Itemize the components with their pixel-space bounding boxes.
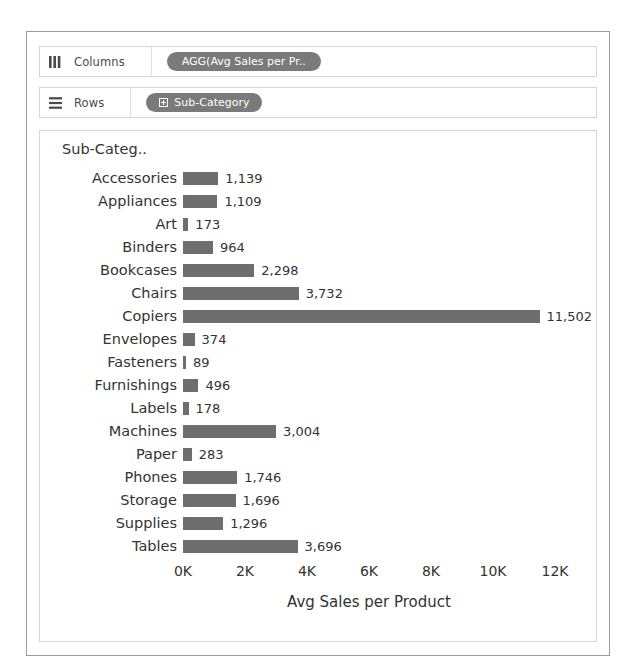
bar-row[interactable]: Accessories1,139 [40,167,598,190]
bar-row[interactable]: Fasteners89 [40,351,598,374]
category-label: Envelopes [103,328,177,351]
shelf-columns-label: Columns [74,55,125,69]
bar-value-label: 1,696 [243,493,280,508]
bar-value-label: 1,296 [230,516,267,531]
bar-mark[interactable] [183,471,237,484]
category-label: Tables [132,535,177,558]
bar-mark[interactable] [183,264,254,277]
bar-value-label: 1,139 [225,171,262,186]
bar-row[interactable]: Machines3,004 [40,420,598,443]
bar-row[interactable]: Appliances1,109 [40,190,598,213]
bar-with-label: 3,004 [183,420,320,443]
bar-mark[interactable] [183,333,195,346]
bar-mark[interactable] [183,218,188,231]
bar-mark[interactable] [183,425,276,438]
pill-rows-text: Sub-Category [174,96,249,109]
bar-mark[interactable] [183,241,213,254]
x-axis-title: Avg Sales per Product [40,593,598,611]
category-label: Appliances [98,190,177,213]
category-label: Bookcases [100,259,177,282]
bar-row[interactable]: Bookcases2,298 [40,259,598,282]
bar-row[interactable]: Supplies1,296 [40,512,598,535]
bar-row[interactable]: Furnishings496 [40,374,598,397]
bar-row[interactable]: Envelopes374 [40,328,598,351]
category-label: Phones [125,466,177,489]
category-label: Machines [109,420,177,443]
bar-row[interactable]: Copiers11,502 [40,305,598,328]
bar-mark[interactable] [183,448,192,461]
category-label: Accessories [92,167,177,190]
bar-mark[interactable] [183,287,299,300]
bar-with-label: 2,298 [183,259,298,282]
bar-row[interactable]: Paper283 [40,443,598,466]
bar-with-label: 283 [183,443,224,466]
x-tick-label: 8K [422,563,440,579]
bar-value-label: 3,732 [306,286,343,301]
bar-value-label: 1,746 [244,470,281,485]
bar-mark[interactable] [183,379,198,392]
bar-mark[interactable] [183,195,217,208]
x-tick-label: 0K [174,563,192,579]
shelf-rows[interactable]: Rows Sub-Category [39,87,597,118]
bar-mark[interactable] [183,494,236,507]
bar-value-label: 11,502 [547,309,593,324]
bar-with-label: 11,502 [183,305,592,328]
bar-with-label: 496 [183,374,230,397]
bar-row[interactable]: Storage1,696 [40,489,598,512]
bar-value-label: 496 [205,378,230,393]
category-label: Copiers [122,305,177,328]
x-tick-label: 6K [360,563,378,579]
category-label: Fasteners [107,351,177,374]
category-label: Art [155,213,177,236]
rows-icon [48,96,66,110]
bar-value-label: 3,696 [305,539,342,554]
category-label: Storage [120,489,177,512]
bar-mark[interactable] [183,540,298,553]
x-axis: 0K2K4K6K8K10K12K [40,563,598,589]
bar-value-label: 283 [199,447,224,462]
bar-mark[interactable] [183,402,189,415]
bar-value-label: 2,298 [261,263,298,278]
bar-with-label: 3,696 [183,535,342,558]
viz-widget-frame: Columns AGG(Avg Sales per Pr.. Rows Sub-… [26,31,610,656]
bar-mark[interactable] [183,172,218,185]
bar-value-label: 964 [220,240,245,255]
x-tick-label: 10K [480,563,507,579]
pill-columns-text: AGG(Avg Sales per Pr.. [182,55,306,68]
bar-mark[interactable] [183,517,223,530]
bar-row[interactable]: Art173 [40,213,598,236]
shelf-columns[interactable]: Columns AGG(Avg Sales per Pr.. [39,46,597,77]
bar-with-label: 1,109 [183,190,262,213]
bar-with-label: 1,296 [183,512,267,535]
bar-row[interactable]: Chairs3,732 [40,282,598,305]
pill-sub-category[interactable]: Sub-Category [146,93,262,112]
category-label: Supplies [116,512,177,535]
bar-mark[interactable] [183,310,540,323]
bar-with-label: 3,732 [183,282,343,305]
bar-value-label: 178 [196,401,221,416]
bar-value-label: 89 [193,355,210,370]
category-label: Chairs [131,282,177,305]
category-label: Binders [122,236,177,259]
chart-panel: Sub-Categ.. Accessories1,139Appliances1,… [39,130,597,642]
bar-row[interactable]: Tables3,696 [40,535,598,558]
x-tick-label: 12K [542,563,569,579]
bar-with-label: 89 [183,351,210,374]
bar-row[interactable]: Binders964 [40,236,598,259]
shelf-rows-label: Rows [74,96,104,110]
bar-row[interactable]: Labels178 [40,397,598,420]
category-label: Labels [130,397,177,420]
x-tick-label: 4K [298,563,316,579]
x-tick-label: 2K [236,563,254,579]
bar-with-label: 1,746 [183,466,281,489]
expand-plus-icon[interactable] [159,98,168,107]
shelf-columns-divider [151,47,152,76]
bar-with-label: 1,139 [183,167,263,190]
bar-value-label: 3,004 [283,424,320,439]
pill-agg-avg-sales[interactable]: AGG(Avg Sales per Pr.. [167,52,321,71]
row-axis-header: Sub-Categ.. [62,141,147,157]
bar-with-label: 173 [183,213,220,236]
bar-mark[interactable] [183,356,186,369]
bar-row[interactable]: Phones1,746 [40,466,598,489]
bar-with-label: 964 [183,236,245,259]
